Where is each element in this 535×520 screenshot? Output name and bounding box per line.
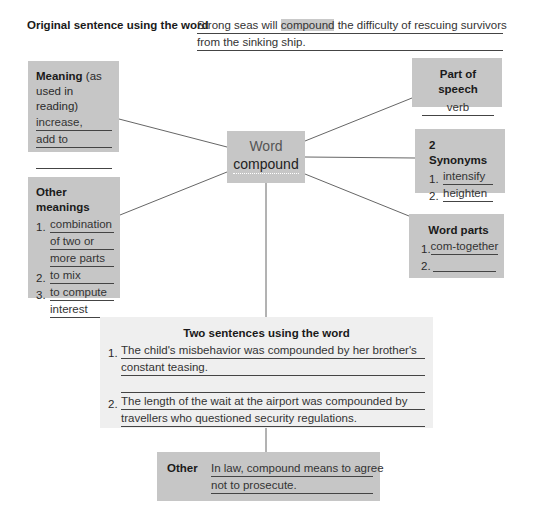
other-meaning-item-3: 3.to compute — [36, 284, 114, 301]
part-of-speech-title: Part of speech — [422, 67, 494, 97]
item-number: 1. — [108, 347, 121, 359]
other-meaning-item-3-cont: interest — [36, 301, 114, 318]
sentence-item-1-cont — [108, 376, 425, 393]
meaning-title: Meaning (as — [36, 69, 112, 84]
word-part-value — [433, 255, 496, 272]
sentence-item-2: 2.The length of the wait at the airport … — [108, 393, 425, 410]
synonym-value: heighten — [443, 185, 493, 202]
sentence-line: constant teasing. — [121, 359, 425, 376]
item-line: to mix — [50, 267, 114, 284]
sentence-line: The length of the wait at the airport wa… — [121, 393, 425, 410]
meaning-line-1: increase, — [36, 114, 112, 131]
sentence-line: The child's misbehavior was compounded b… — [121, 342, 425, 359]
original-sentence-text: Strong seas will compound the difficulty… — [197, 17, 503, 51]
item-number: 1. — [429, 173, 443, 185]
word-parts-box: Word parts 1.com-together 2. — [409, 214, 504, 278]
synonym-item-1: 1.intensify — [429, 168, 493, 185]
sentence-item-1: 1.The child's misbehavior was compounded… — [108, 342, 425, 359]
other-meaning-item-1: 1.combination — [36, 216, 114, 233]
original-sentence-label: Original sentence using the word — [27, 18, 208, 33]
highlighted-word: compound — [281, 19, 335, 31]
item-line: to compute — [50, 284, 114, 301]
other-meaning-item-2: 2.to mix — [36, 267, 114, 284]
item-line: more parts — [50, 250, 114, 267]
word-part-value: com-together — [431, 238, 499, 255]
sentence-item-2-cont: travellers who questioned security regul… — [108, 410, 425, 427]
meaning-box: Meaning (as used in reading) increase, a… — [28, 61, 119, 152]
other-line: not to prosecute. — [211, 477, 373, 494]
other-meanings-box: Other meanings 1.combination of two or m… — [28, 177, 120, 298]
center-word-label: Word — [227, 137, 305, 155]
item-line: combination — [50, 216, 114, 233]
item-number: 3. — [36, 289, 50, 301]
item-number: 2. — [36, 272, 50, 284]
other-line: In law, compound means to agree — [211, 460, 373, 477]
word-parts-title: Word parts — [421, 223, 496, 238]
synonyms-title: 2 Synonyms — [429, 138, 493, 168]
other-label: Other — [167, 461, 198, 476]
word-part-item-1: 1.com-together — [421, 238, 496, 255]
other-box: Other In law, compound means to agree no… — [157, 452, 380, 501]
two-sentences-title: Two sentences using the word — [108, 326, 425, 341]
item-number: 1. — [421, 243, 431, 255]
other-text: In law, compound means to agree not to p… — [211, 460, 373, 494]
sentence-line: travellers who questioned security regul… — [121, 410, 425, 427]
item-line: interest — [50, 301, 114, 318]
sentence-text: the difficulty of rescuing survivors — [334, 19, 506, 31]
synonym-item-2: 2.heighten — [429, 185, 493, 202]
item-number: 1. — [36, 221, 50, 233]
other-meaning-item-1-cont: more parts — [36, 250, 114, 267]
synonyms-box: 2 Synonyms 1.intensify 2.heighten — [415, 129, 505, 193]
meaning-title-rest: (as — [83, 70, 102, 82]
other-meanings-title: Other meanings — [36, 185, 114, 215]
part-of-speech-box: Part of speech verb — [412, 58, 502, 107]
item-number: 2. — [429, 190, 443, 202]
two-sentences-box: Two sentences using the word 1.The child… — [100, 317, 433, 428]
item-number: 2. — [421, 260, 433, 272]
other-meaning-item-1-cont: of two or — [36, 233, 114, 250]
part-of-speech-value: verb — [422, 99, 494, 116]
item-line: of two or — [50, 233, 114, 250]
sentence-line — [121, 376, 425, 393]
center-word: compound — [233, 155, 298, 174]
synonym-value: intensify — [443, 168, 493, 185]
sentence-item-1-cont: constant teasing. — [108, 359, 425, 376]
meaning-title-bold: Meaning — [36, 70, 83, 82]
meaning-title-line-2: used in reading) — [36, 84, 112, 114]
meaning-line-2: add to — [36, 131, 112, 148]
meaning-line-3 — [36, 152, 112, 169]
word-part-item-2: 2. — [421, 255, 496, 272]
sentence-text: Strong seas will — [197, 19, 281, 31]
item-number: 2. — [108, 398, 121, 410]
original-sentence-line-2: from the sinking ship. — [197, 34, 503, 51]
center-word-box: Word compound — [227, 131, 305, 183]
original-sentence-line-1: Strong seas will compound the difficulty… — [197, 17, 503, 34]
